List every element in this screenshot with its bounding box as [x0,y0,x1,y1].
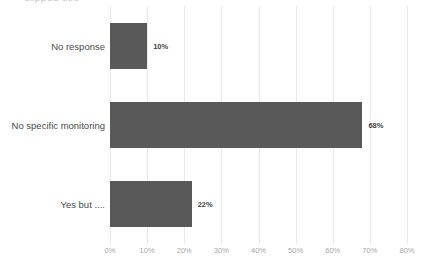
x-tick-label: 30% [214,246,229,255]
bar [110,102,362,148]
gridline [407,6,408,244]
x-axis-tick-labels: 0%10%20%30%40%50%60%70%80% [110,244,407,260]
x-tick-label: 50% [288,246,303,255]
x-tick-label: 10% [140,246,155,255]
bar-value-label: 22% [198,200,213,209]
bar-chart: clipped title No responseNo specific mon… [0,0,424,262]
bar [110,181,192,227]
category-label: No specific monitoring [0,120,105,131]
chart-title-text: clipped title [24,0,79,3]
x-tick-label: 60% [325,246,340,255]
plot-area: 10%68%22% [110,6,407,244]
bar-value-label: 68% [368,121,383,130]
category-axis-labels: No responseNo specific monitoringYes but… [0,6,105,244]
x-tick-label: 40% [251,246,266,255]
x-tick-label: 70% [362,246,377,255]
x-tick-label: 0% [105,246,116,255]
category-label: Yes but .... [0,199,105,210]
x-tick-label: 80% [399,246,414,255]
chart-title-clipped: clipped title [0,0,424,5]
x-tick-label: 20% [177,246,192,255]
bar-value-label: 10% [153,41,168,50]
bar [110,23,147,69]
category-label: No response [0,40,105,51]
